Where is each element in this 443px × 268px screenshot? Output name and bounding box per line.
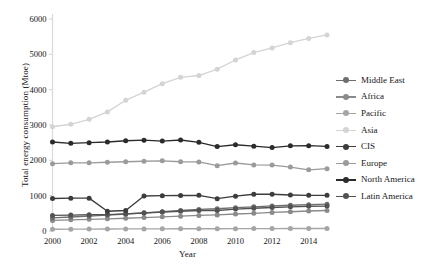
legend-item[interactable]: North America — [336, 172, 443, 189]
data-point — [196, 73, 201, 78]
data-point — [196, 193, 201, 198]
legend-item-label: Middle East — [361, 76, 405, 85]
data-point — [105, 109, 110, 114]
x-tick-label: 2012 — [264, 236, 281, 246]
data-point — [68, 196, 73, 201]
data-point — [123, 98, 128, 103]
data-point — [142, 215, 147, 220]
data-point — [196, 159, 201, 164]
data-point — [288, 209, 293, 214]
data-point — [50, 161, 55, 166]
data-point — [142, 210, 147, 215]
data-point — [270, 163, 275, 168]
data-point — [160, 193, 165, 198]
data-point — [215, 196, 220, 201]
legend-marker-icon — [336, 157, 356, 169]
data-point — [160, 81, 165, 86]
legend-item[interactable]: Africa — [336, 89, 443, 106]
data-point — [215, 226, 220, 231]
data-point — [270, 226, 275, 231]
legend-marker-icon — [336, 141, 356, 153]
data-point — [105, 139, 110, 144]
data-point — [288, 165, 293, 170]
legend-item[interactable]: Latin America — [336, 188, 443, 205]
x-tick-label: 2002 — [81, 236, 98, 246]
data-point — [178, 209, 183, 214]
data-point — [251, 211, 256, 216]
data-point — [68, 122, 73, 127]
data-point — [105, 209, 110, 214]
series-line — [53, 206, 328, 215]
data-point — [196, 213, 201, 218]
data-point — [178, 138, 183, 143]
y-tick-label: 2000 — [30, 155, 47, 165]
series-europe — [50, 158, 330, 172]
x-tick-label: 2006 — [154, 236, 171, 246]
x-axis-title: Year — [50, 249, 325, 259]
legend-item-label: Europe — [361, 159, 387, 168]
data-point — [325, 144, 330, 149]
legend-item-label: Asia — [361, 126, 378, 135]
data-point — [325, 166, 330, 171]
data-point — [178, 214, 183, 219]
legend-item-label: Pacific — [361, 109, 386, 118]
data-point — [123, 159, 128, 164]
data-point — [87, 117, 92, 122]
data-point — [215, 67, 220, 72]
data-point — [215, 208, 220, 213]
data-point — [325, 32, 330, 37]
data-point — [123, 226, 128, 231]
legend-item[interactable]: CIS — [336, 138, 443, 155]
data-point — [288, 204, 293, 209]
y-axis-title: Total energy consumption (Mtoe) — [20, 40, 30, 210]
data-point — [270, 192, 275, 197]
data-point — [215, 144, 220, 149]
y-tick-label: 1000 — [30, 191, 47, 201]
series-line — [53, 194, 328, 211]
data-point — [288, 226, 293, 231]
data-point — [306, 167, 311, 172]
legend-item[interactable]: Pacific — [336, 105, 443, 122]
data-point — [306, 204, 311, 209]
data-point — [306, 209, 311, 214]
legend-item[interactable]: Middle East — [336, 72, 443, 89]
data-point — [87, 212, 92, 217]
data-point — [142, 138, 147, 143]
data-point — [251, 162, 256, 167]
data-point — [87, 140, 92, 145]
data-point — [178, 226, 183, 231]
y-tick-label: 3000 — [30, 120, 47, 130]
series-line — [53, 140, 328, 148]
data-point — [306, 36, 311, 41]
data-point — [68, 227, 73, 232]
data-point — [50, 139, 55, 144]
data-point — [288, 40, 293, 45]
data-point — [233, 207, 238, 212]
data-point — [123, 138, 128, 143]
data-point — [142, 90, 147, 95]
x-tick-label: 2014 — [300, 236, 318, 246]
legend-item-label: Africa — [361, 92, 384, 101]
data-point — [306, 143, 311, 148]
y-tick-label: 6000 — [30, 14, 47, 24]
data-point — [233, 212, 238, 217]
series-pacific — [50, 226, 330, 232]
data-point — [215, 163, 220, 168]
legend-marker-icon — [336, 74, 356, 86]
data-point — [123, 208, 128, 213]
legend-marker-icon — [336, 107, 356, 119]
data-point — [50, 124, 55, 129]
data-point — [178, 159, 183, 164]
data-point — [50, 213, 55, 218]
data-point — [160, 210, 165, 215]
data-point — [325, 193, 330, 198]
data-point — [251, 206, 256, 211]
data-point — [142, 159, 147, 164]
data-point — [50, 196, 55, 201]
series-north-america — [50, 138, 330, 151]
legend-item[interactable]: Asia — [336, 122, 443, 139]
legend-marker-icon — [336, 174, 356, 186]
series-asia — [50, 32, 330, 129]
legend-item[interactable]: Europe — [336, 155, 443, 172]
y-tick-label: 0 — [42, 226, 46, 236]
